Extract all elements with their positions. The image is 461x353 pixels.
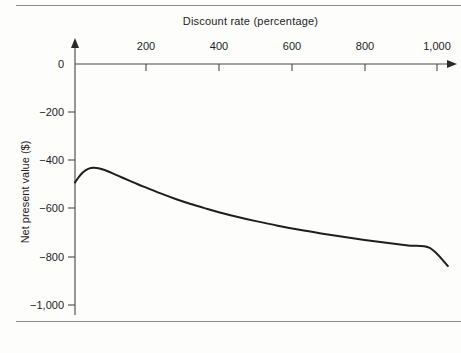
y-tick-label-minus400: −400	[10, 154, 64, 166]
y-tick-label-minus800: −800	[10, 251, 64, 263]
y-axis-arrow-up-icon	[71, 38, 79, 48]
plot-area	[0, 0, 461, 353]
x-tick-label-600: 600	[283, 40, 301, 52]
y-tick-label-minus600: −600	[10, 202, 64, 214]
npv-curve	[75, 168, 448, 266]
y-tick-label-minus1000: −1,000	[10, 299, 64, 311]
figure-container: Discount rate (percentage) Net present v…	[0, 0, 461, 353]
y-tick-label-0: 0	[10, 58, 64, 70]
y-axis-ticks	[68, 112, 75, 305]
y-tick-label-minus200: −200	[10, 106, 64, 118]
x-tick-label-800: 800	[356, 40, 374, 52]
x-axis-arrow-right-icon	[447, 60, 457, 68]
x-tick-label-400: 400	[210, 40, 228, 52]
x-tick-label-200: 200	[137, 40, 155, 52]
x-axis-ticks	[146, 64, 437, 71]
x-tick-label-1000: 1,000	[423, 40, 451, 52]
